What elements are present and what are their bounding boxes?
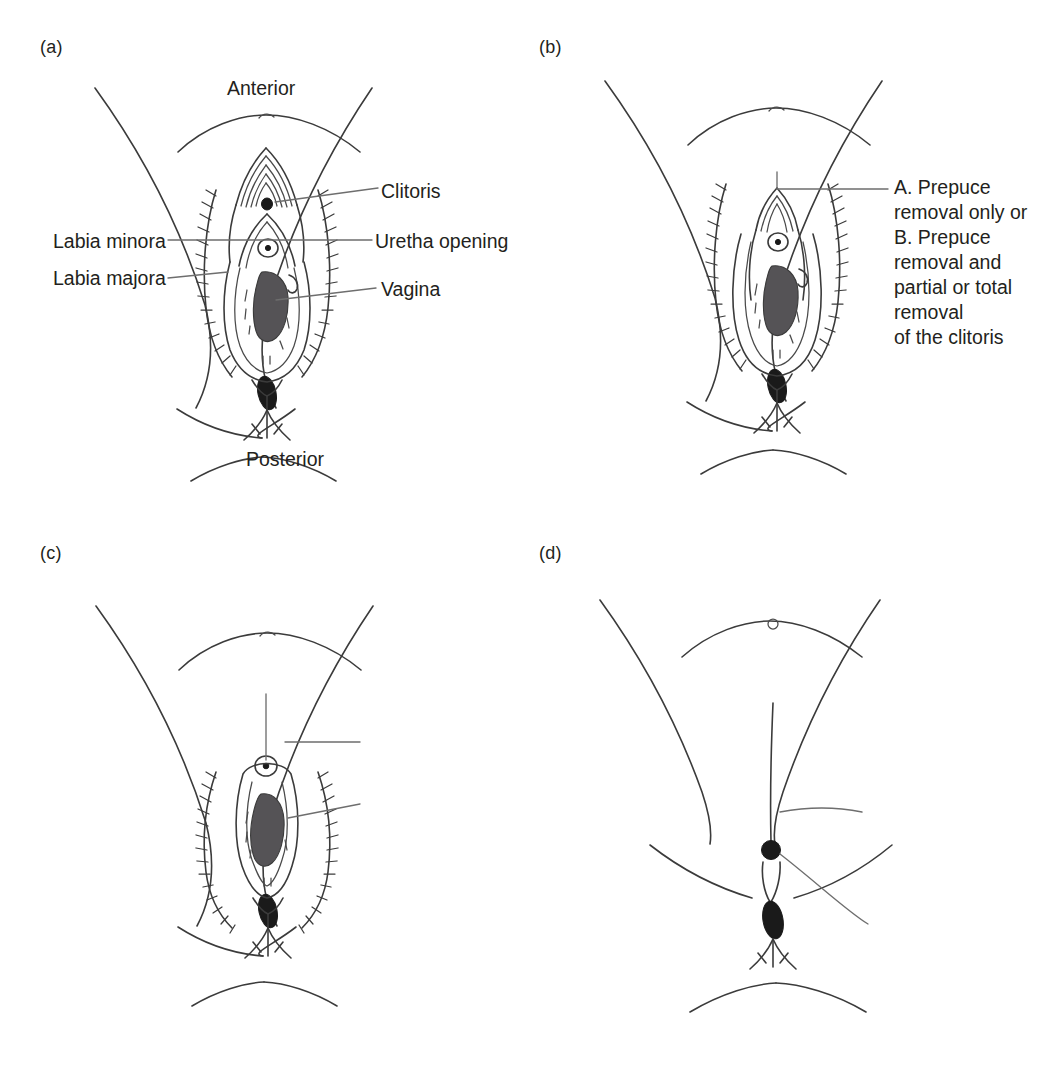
label-clitoris: Clitoris	[381, 182, 441, 202]
panel-a: (a)	[0, 0, 530, 520]
label-posterior: Posterior	[246, 450, 324, 470]
label-labia-minora: Labia minora	[53, 232, 166, 252]
label-vagina: Vagina	[381, 280, 440, 300]
panel-d: (d)	[530, 520, 1063, 1065]
panel-d-illustration	[530, 520, 1063, 1065]
figure-root: (a)	[0, 0, 1063, 1065]
panel-b-description: A. Prepuce removal only or B. Prepuce re…	[894, 175, 1027, 350]
label-labia-majora: Labia majora	[53, 269, 166, 289]
panel-c-illustration	[0, 520, 530, 1065]
label-anterior: Anterior	[227, 79, 295, 99]
panel-b: (b)	[530, 0, 1063, 520]
label-uretha-opening: Uretha opening	[375, 232, 508, 252]
panel-c: (c)	[0, 520, 530, 1065]
